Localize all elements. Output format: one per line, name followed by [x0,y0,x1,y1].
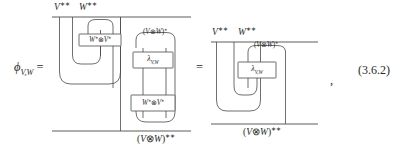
trailing-comma: , [330,74,333,87]
star-sup-rl: ∗ [275,40,278,45]
tensor-sign-rb: ⊗ [252,127,260,137]
right-label-bottom-tensor-doubledual: (V⊗W)∗∗ [243,127,281,138]
left-boxlabel-lambda: λV,W [147,55,158,65]
star-sup-l: ∗ [164,27,167,32]
v-superscript-r: ∗∗ [218,26,228,32]
star-sup-b: ∗∗ [165,133,175,139]
w-superscript-r: ∗∗ [246,26,256,32]
equation-figure: ϕV,W = V∗∗ W∗∗ W∗⊗V∗ (V⊗W)∗ λV,W W∗⊗V∗ (… [0,0,411,152]
equation-number: (3.6.2) [358,64,390,76]
phi-morphism-label: ϕV,W = [14,61,44,77]
right-diagram-wires [0,0,411,152]
w-base-b: W [154,134,162,144]
star-sup-rb: ∗∗ [271,126,281,132]
left-boxlabel-wstar-tensor-vstar-lower: W∗⊗V∗ [142,99,164,108]
w-base: W [79,2,87,12]
lambda-subscript-r: V,W [255,69,263,75]
w-base-r: W [238,27,246,37]
w-superscript: ∗∗ [87,1,97,7]
phi-subscript: V,W [20,68,33,77]
w-base-rb: W [260,127,268,137]
equals-sign-middle: = [196,61,203,74]
left-label-w-doubledual: W∗∗ [79,2,97,13]
vstar-sup-d: ∗ [161,98,164,103]
right-label-v-doubledual: V∗∗ [212,27,228,38]
left-label-v-doubledual: V∗∗ [54,2,70,13]
tensor-sign-b: ⊗ [146,134,154,144]
right-boxlabel-lambda: λV,W [251,65,262,75]
left-label-tensor-dual: (V⊗W)∗ [143,28,167,37]
equals-sign-left: = [37,60,44,74]
right-cap-tensor-dual [248,46,286,125]
left-label-bottom-tensor-doubledual: (V⊗W)∗∗ [137,134,175,145]
right-label-w-doubledual: W∗∗ [238,27,256,38]
vstar-sup-u: ∗ [108,35,111,40]
left-boxlabel-wstar-tensor-vstar-upper: W∗⊗V∗ [89,36,111,45]
lambda-subscript-l: V,W [151,59,159,65]
right-label-tensor-dual: (V⊗W)∗ [254,41,278,50]
v-superscript: ∗∗ [60,1,70,7]
